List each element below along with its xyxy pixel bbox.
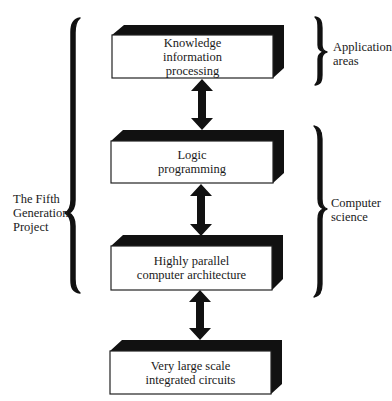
box-vlsi-line-2: integrated circuits — [146, 373, 236, 387]
box-knowledge-label: Knowledge information processing — [112, 35, 273, 78]
box-knowledge-line-2: information — [163, 50, 222, 64]
box-knowledge-line-3: processing — [166, 64, 219, 78]
left-brace-icon — [65, 18, 80, 293]
box-logic-line-2: programming — [158, 162, 226, 176]
double-arrow-icon — [189, 290, 211, 340]
fifth-generation-line-3: Project — [13, 220, 69, 234]
double-arrow-icon — [190, 184, 212, 236]
right-brace-computer-science-icon — [314, 126, 327, 297]
fifth-generation-line-1: The Fifth — [13, 192, 69, 206]
double-arrow-icon — [191, 79, 213, 130]
computer-science-line-2: science — [331, 210, 381, 224]
application-areas-line-2: areas — [333, 54, 392, 68]
box-logic-label: Logic programming — [111, 141, 273, 183]
fifth-generation-diagram: Knowledge information processing Logic p… — [0, 0, 392, 401]
box-vlsi-line-1: Very large scale — [151, 359, 231, 373]
computer-science-label: Computer science — [331, 196, 381, 224]
fifth-generation-project-label: The Fifth Generation Project — [13, 192, 69, 234]
box-architecture-line-2: computer architecture — [137, 268, 246, 282]
box-logic-line-1: Logic — [177, 148, 206, 162]
application-areas-label: Application areas — [333, 40, 392, 68]
box-architecture-label: Highly parallel computer architecture — [111, 246, 272, 290]
box-architecture-line-1: Highly parallel — [154, 254, 229, 268]
fifth-generation-line-2: Generation — [13, 206, 69, 220]
box-vlsi-label: Very large scale integrated circuits — [110, 351, 271, 394]
application-areas-line-1: Application — [333, 40, 392, 54]
computer-science-line-1: Computer — [331, 196, 381, 210]
right-brace-application-icon — [315, 17, 327, 85]
box-knowledge-line-1: Knowledge — [164, 36, 222, 50]
